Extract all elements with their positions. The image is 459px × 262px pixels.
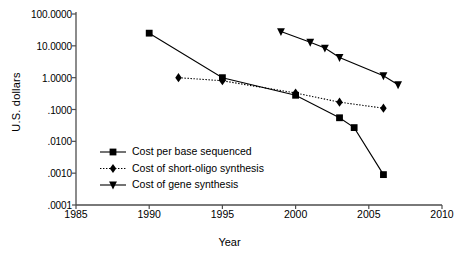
data-point [394,81,402,89]
data-point [336,98,342,107]
legend-marker [110,149,117,156]
legend-item-label: Cost of gene synthesis [132,178,238,190]
data-point [380,72,388,80]
data-point [321,45,329,53]
series-3 [277,28,402,89]
series-2 [175,73,386,113]
axes-layer [72,12,442,209]
series-line [178,78,383,109]
data-point [175,73,181,82]
data-point [336,54,344,62]
chart-figure: U.S. dollars Year 100.000010.00001.0000.… [0,0,459,262]
legend-layer [100,149,126,190]
legend-item-label: Cost of short-oligo synthesis [132,162,264,174]
chart-canvas [0,0,459,262]
data-point [146,30,153,37]
data-point [380,171,387,178]
legend-item-label: Cost per base sequenced [132,145,252,157]
data-point [336,114,343,121]
legend-marker [110,164,116,173]
data-point [351,124,358,131]
data-point [380,104,386,113]
